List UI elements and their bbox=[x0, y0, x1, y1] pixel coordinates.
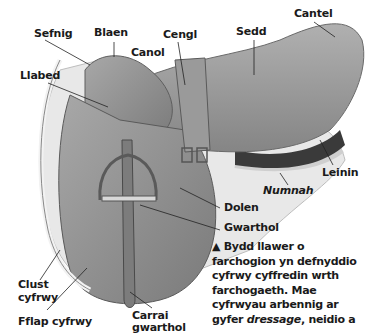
label-canol: Canol bbox=[131, 47, 165, 59]
label-blaen: Blaen bbox=[94, 27, 128, 39]
caption-line-1: ▲ Bydd llawer o bbox=[212, 240, 369, 255]
saddle-diagram: Sefnig Blaen Canol Cengl Sedd Cantel Lla… bbox=[0, 0, 369, 334]
label-cantel: Cantel bbox=[294, 8, 333, 20]
caption-line-3: cyfrwy cyffredin wrth bbox=[212, 269, 369, 284]
caption-line-5: cyfrwyau arbennig ar bbox=[212, 298, 369, 313]
label-llabed: Llabed bbox=[20, 70, 60, 82]
label-numnah: Numnah bbox=[263, 185, 313, 197]
triangle-marker-icon: ▲ bbox=[212, 240, 220, 253]
label-clust-cyfrwy-line1: Clust bbox=[18, 279, 48, 291]
label-gwarthol: Gwarthol bbox=[224, 222, 279, 234]
label-dolen: Dolen bbox=[224, 202, 259, 214]
caption-line-2: farchogion yn defnyddio bbox=[212, 255, 369, 270]
label-leinin: Leinin bbox=[322, 167, 358, 179]
label-carrai-gwarthol-line2: gwarthol bbox=[132, 322, 186, 334]
label-sedd: Sedd bbox=[236, 26, 266, 38]
caption-line-6: gyfer dressage, neidio a bbox=[212, 313, 369, 328]
caption: ▲ Bydd llawer o farchogion yn defnyddio … bbox=[212, 240, 369, 328]
caption-line-4: farchogaeth. Mae bbox=[212, 284, 369, 299]
label-sefnig: Sefnig bbox=[34, 28, 72, 40]
label-clust-cyfrwy-line2: cyfrwy bbox=[18, 292, 58, 304]
label-fflap-cyfrwy: Fflap cyfrwy bbox=[18, 316, 92, 328]
label-cengl: Cengl bbox=[163, 29, 197, 41]
